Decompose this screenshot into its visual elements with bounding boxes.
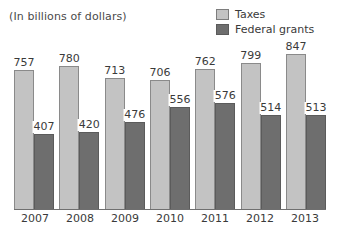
bar-2008-taxes: 780 (59, 66, 79, 209)
x-tick-2008: 2008 (59, 212, 101, 225)
bar-value-2009-taxes: 713 (103, 65, 126, 77)
bar-wrap-2013-grants: 513 (306, 44, 326, 209)
bar-2011-taxes: 762 (195, 69, 215, 209)
bar-wrap-2010-grants: 556 (170, 44, 190, 209)
bar-2009-taxes: 713 (105, 78, 125, 209)
bar-chart: (In billions of dollars) Taxes Federal g… (0, 0, 340, 245)
bar-2007-federal-grants: 407 (34, 134, 54, 209)
bar-wrap-2009-grants: 476 (125, 44, 145, 209)
bar-value-2008-taxes: 780 (58, 53, 81, 65)
legend-item-federal-grants: Federal grants (216, 23, 314, 35)
unit-note: (In billions of dollars) (9, 10, 127, 23)
legend-swatch-taxes-icon (216, 9, 229, 20)
bar-value-2011-taxes: 762 (194, 56, 217, 68)
bar-value-2012-taxes: 799 (239, 50, 262, 62)
bar-value-2007-federal-grants: 407 (33, 121, 56, 133)
bar-value-2010-federal-grants: 556 (168, 94, 191, 106)
bar-groups: 757 407 780 420 (14, 44, 326, 209)
bar-wrap-2008-grants: 420 (79, 44, 99, 209)
bar-group-2007: 757 407 (14, 44, 54, 209)
bar-wrap-2009-taxes: 713 (105, 44, 125, 209)
bar-2012-taxes: 799 (241, 63, 261, 209)
bar-wrap-2011-grants: 576 (215, 44, 235, 209)
x-axis-labels: 2007 2008 2009 2010 2011 2012 2013 (14, 212, 326, 225)
bar-group-2010: 706 556 (150, 44, 190, 209)
bar-2010-federal-grants: 556 (170, 107, 190, 209)
bar-wrap-2010-taxes: 706 (150, 44, 170, 209)
bar-wrap-2011-taxes: 762 (195, 44, 215, 209)
bar-2013-federal-grants: 513 (306, 115, 326, 209)
bar-value-2008-federal-grants: 420 (78, 119, 101, 131)
x-tick-2007: 2007 (14, 212, 56, 225)
bar-group-2011: 762 576 (195, 44, 235, 209)
x-tick-2010: 2010 (149, 212, 191, 225)
x-tick-2012: 2012 (239, 212, 281, 225)
bar-2013-taxes: 847 (286, 54, 306, 209)
legend-label-federal-grants: Federal grants (235, 24, 314, 35)
bar-value-2013-taxes: 847 (284, 41, 307, 53)
legend-label-taxes: Taxes (235, 9, 265, 20)
bar-group-2008: 780 420 (59, 44, 99, 209)
bar-value-2013-federal-grants: 513 (304, 102, 327, 114)
x-tick-2013: 2013 (284, 212, 326, 225)
bar-2007-taxes: 757 (14, 70, 34, 209)
bar-wrap-2012-grants: 514 (261, 44, 281, 209)
bar-wrap-2012-taxes: 799 (241, 44, 261, 209)
bar-2010-taxes: 706 (150, 80, 170, 209)
bar-value-2009-federal-grants: 476 (123, 109, 146, 121)
bar-wrap-2007-grants: 407 (34, 44, 54, 209)
bar-2009-federal-grants: 476 (125, 122, 145, 209)
bar-value-2012-federal-grants: 514 (259, 102, 282, 114)
bar-value-2011-federal-grants: 576 (214, 90, 237, 102)
x-tick-2009: 2009 (104, 212, 146, 225)
bar-2008-federal-grants: 420 (79, 132, 99, 209)
bar-2012-federal-grants: 514 (261, 115, 281, 209)
plot-area: 757 407 780 420 (14, 44, 326, 210)
legend-item-taxes: Taxes (216, 8, 314, 20)
bar-wrap-2007-taxes: 757 (14, 44, 34, 209)
bar-2011-federal-grants: 576 (215, 103, 235, 209)
bar-group-2012: 799 514 (241, 44, 281, 209)
bar-wrap-2008-taxes: 780 (59, 44, 79, 209)
bar-value-2010-taxes: 706 (148, 67, 171, 79)
bar-group-2009: 713 476 (105, 44, 145, 209)
bar-wrap-2013-taxes: 847 (286, 44, 306, 209)
legend-swatch-federal-grants-icon (216, 24, 229, 35)
x-axis-baseline (14, 209, 326, 210)
x-tick-2011: 2011 (194, 212, 236, 225)
bar-value-2007-taxes: 757 (13, 57, 36, 69)
legend: Taxes Federal grants (216, 8, 314, 35)
bar-group-2013: 847 513 (286, 44, 326, 209)
